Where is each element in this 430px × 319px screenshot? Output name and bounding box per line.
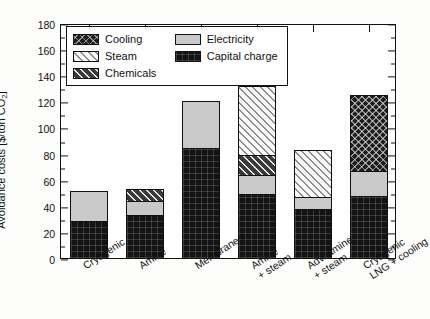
y-axis-tick-minor	[61, 64, 65, 65]
y-axis-tick-label: 0	[49, 254, 61, 266]
y-axis-tick-minor	[61, 168, 65, 169]
y-axis-tick-major	[61, 181, 68, 182]
y-axis-tick-right	[391, 142, 395, 143]
y-axis-tick-right	[388, 155, 395, 156]
y-axis-tick-major	[61, 155, 68, 156]
bar-segment-steam[interactable]	[294, 150, 332, 198]
legend-item-chemicals[interactable]: Chemicals	[73, 65, 161, 81]
legend-label: Steam	[105, 51, 137, 62]
y-axis-tick-major	[61, 129, 68, 130]
y-axis-tick-label: 80	[44, 150, 61, 162]
y-axis-tick-minor	[61, 90, 65, 91]
y-axis-tick-major	[61, 259, 68, 260]
y-axis-tick-label: 120	[38, 97, 61, 109]
y-axis-tick-label: 180	[38, 19, 61, 31]
bar-segment-chemicals[interactable]	[126, 189, 164, 202]
legend-item-electricity[interactable]: Electricity	[175, 31, 282, 47]
legend-label: Electricity	[207, 34, 254, 45]
y-axis-tick-right	[391, 168, 395, 169]
bar-cryogenic-lng---cooling[interactable]	[350, 95, 388, 258]
bar-segment-electricity[interactable]	[182, 101, 220, 149]
y-axis-tick-right	[391, 220, 395, 221]
legend-swatch-icon	[73, 68, 99, 79]
y-axis-tick-label: 100	[38, 123, 61, 135]
legend-item-cooling[interactable]: Cooling	[73, 31, 161, 47]
legend-item-steam[interactable]: Steam	[73, 48, 161, 64]
y-axis-tick-label: 140	[38, 71, 61, 83]
bar-segment-cooling[interactable]	[350, 95, 388, 172]
legend-label: Capital charge	[207, 51, 278, 62]
y-axis-tick-label: 40	[44, 202, 61, 214]
y-axis-tick-right	[388, 24, 395, 25]
bar-membranes[interactable]	[182, 101, 220, 258]
x-axis-tick-top	[313, 25, 314, 32]
y-axis-title: Avoidance costs [$/ton CO2]	[0, 91, 9, 229]
y-axis-tick-major	[61, 233, 68, 234]
legend-label: Cooling	[105, 34, 142, 45]
bar-segment-electricity[interactable]	[294, 197, 332, 210]
y-axis-tick-right	[388, 77, 395, 78]
y-axis-tick-right	[391, 116, 395, 117]
y-axis-tick-label: 60	[44, 176, 61, 188]
y-axis-title-suffix: ]	[0, 91, 7, 94]
y-axis-tick-label: 20	[44, 228, 61, 240]
y-axis-tick-minor	[61, 116, 65, 117]
chart-legend: CoolingElectricitySteamCapital chargeChe…	[66, 26, 288, 86]
bar-segment-electricity[interactable]	[70, 191, 108, 222]
legend-swatch-icon	[175, 34, 201, 45]
y-axis-tick-minor	[61, 38, 65, 39]
bar-adv--amine---steam[interactable]	[294, 150, 332, 258]
bar-amine---steam[interactable]	[238, 86, 276, 258]
y-axis-tick-minor	[61, 142, 65, 143]
y-axis-tick-label: 160	[38, 45, 61, 57]
y-axis-tick-right	[391, 64, 395, 65]
x-axis-tick-top	[369, 25, 370, 32]
y-axis-tick-major	[61, 207, 68, 208]
y-axis-tick-right	[388, 233, 395, 234]
y-axis-tick-right	[391, 38, 395, 39]
y-axis-tick-right	[388, 103, 395, 104]
y-axis-tick-major	[61, 103, 68, 104]
legend-swatch-icon	[175, 51, 201, 62]
bar-segment-steam[interactable]	[238, 86, 276, 157]
bar-segment-electricity[interactable]	[238, 175, 276, 195]
y-axis-tick-right	[388, 207, 395, 208]
bar-segment-electricity[interactable]	[350, 171, 388, 197]
y-axis-tick-right	[391, 194, 395, 195]
legend-swatch-icon	[73, 51, 99, 62]
y-axis-tick-minor	[61, 246, 65, 247]
bar-segment-capital-charge[interactable]	[182, 148, 220, 259]
legend-item-capital-charge[interactable]: Capital charge	[175, 48, 282, 64]
y-axis-tick-right	[388, 51, 395, 52]
y-axis-title-prefix: Avoidance costs [$/ton CO	[0, 98, 7, 228]
y-axis-tick-right	[391, 90, 395, 91]
y-axis-title-subscript: 2	[0, 94, 9, 98]
y-axis-tick-right	[388, 181, 395, 182]
y-axis-tick-minor	[61, 220, 65, 221]
legend-label: Chemicals	[105, 68, 156, 79]
y-axis-tick-minor	[61, 194, 65, 195]
bar-segment-chemicals[interactable]	[238, 155, 276, 176]
legend-swatch-icon	[73, 34, 99, 45]
y-axis-tick-right	[388, 129, 395, 130]
bar-segment-electricity[interactable]	[126, 201, 164, 215]
